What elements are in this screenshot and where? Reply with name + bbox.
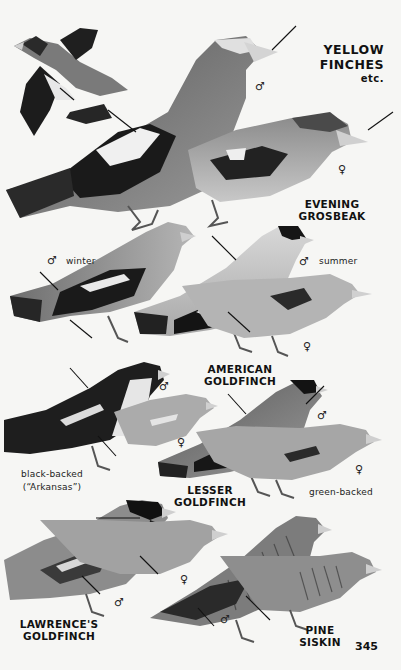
species-label-lawrences-goldfinch: LAWRENCE'S GOLDFINCH <box>14 618 104 642</box>
female-symbol: ♀ <box>355 464 363 475</box>
page-number: 345 <box>355 640 378 653</box>
title-line-3: etc. <box>320 72 384 85</box>
page-title: YELLOW FINCHES etc. <box>320 42 384 85</box>
female-symbol: ♀ <box>303 341 311 352</box>
american-goldfinch-female <box>182 274 372 356</box>
variant-label-summer: summer <box>319 256 357 266</box>
variant-label-green-backed: green-backed <box>309 487 373 497</box>
male-symbol: ♂ <box>159 381 169 392</box>
female-symbol: ♀ <box>177 437 185 448</box>
male-symbol: ♂ <box>255 81 265 92</box>
male-symbol: ♂ <box>47 255 57 266</box>
bird-illustrations <box>0 0 401 670</box>
male-symbol: ♂ <box>114 597 124 608</box>
female-symbol: ♀ <box>338 164 346 175</box>
title-line-2: FINCHES <box>320 57 384 72</box>
male-symbol: ♂ <box>220 614 230 625</box>
evening-grosbeak-flying <box>14 28 128 136</box>
male-symbol: ♂ <box>317 410 327 421</box>
title-line-1: YELLOW <box>324 42 385 57</box>
species-label-lesser-goldfinch: LESSER GOLDFINCH <box>160 484 260 508</box>
male-symbol: ♂ <box>299 256 309 267</box>
species-label-evening-grosbeak: EVENING GROSBEAK <box>282 198 382 222</box>
field-guide-page: YELLOW FINCHES etc. ♂ ♀ EVENING GROSBEAK… <box>0 0 401 670</box>
female-symbol: ♀ <box>180 574 188 585</box>
species-label-pine-siskin: PINE SISKIN <box>290 624 350 648</box>
variant-label-black-backed: black-backed (“Arkansas”) <box>12 468 92 494</box>
species-label-american-goldfinch: AMERICAN GOLDFINCH <box>190 363 290 387</box>
variant-label-winter: winter <box>66 256 96 266</box>
